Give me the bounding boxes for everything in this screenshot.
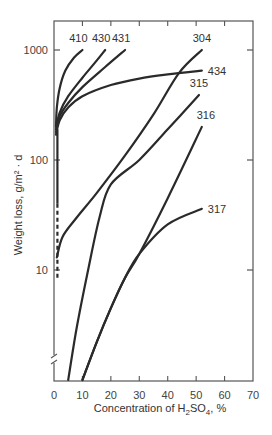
curve-315 bbox=[68, 95, 199, 380]
y-tick-label: 100 bbox=[30, 154, 48, 166]
curve-label-430: 430 bbox=[92, 32, 110, 44]
x-tick-label: 70 bbox=[247, 389, 259, 401]
curve-431 bbox=[56, 50, 125, 132]
curves bbox=[56, 50, 202, 380]
curve-label-304: 304 bbox=[193, 32, 211, 44]
x-tick-label: 50 bbox=[190, 389, 202, 401]
curve-label-316: 316 bbox=[197, 109, 215, 121]
x-tick-label: 10 bbox=[76, 389, 88, 401]
x-tick-label: 20 bbox=[105, 389, 117, 401]
curve-label-434: 434 bbox=[208, 65, 226, 77]
curve-label-431: 431 bbox=[112, 32, 130, 44]
curve-316 bbox=[82, 127, 201, 380]
x-tick-label: 60 bbox=[218, 389, 230, 401]
x-tick-label: 40 bbox=[162, 389, 174, 401]
x-axis-title: Concentration of H2SO4, % bbox=[94, 402, 227, 417]
curve-label-317: 317 bbox=[208, 203, 226, 215]
x-tick-label: 30 bbox=[133, 389, 145, 401]
corrosion-chart: 010203040506070 101001000 41043043143430… bbox=[0, 0, 272, 435]
x-tick-label: 0 bbox=[51, 389, 57, 401]
curve-317 bbox=[82, 209, 201, 380]
curve-label-315: 315 bbox=[190, 77, 208, 89]
y-axis-title: Weight loss, g/m² · d bbox=[12, 155, 24, 256]
y-tick-label: 10 bbox=[36, 264, 48, 276]
curve-label-410: 410 bbox=[69, 32, 87, 44]
y-tick-label: 1000 bbox=[24, 44, 48, 56]
curve-434 bbox=[56, 71, 202, 135]
